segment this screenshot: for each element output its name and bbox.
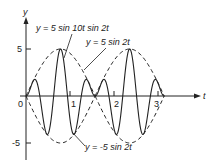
t-axis-label: t [203, 91, 206, 101]
modulated-sine-chart: y t 5 -5 0 1 2 3 y = 5 sin 10t sin 2t y … [0, 0, 207, 164]
y-tick-label-neg5: -5 [12, 138, 20, 148]
t-tick-label-2: 2 [114, 99, 119, 109]
annotation-upper-leader [84, 48, 106, 70]
annotation-upper-envelope: y = 5 sin 2t [85, 37, 130, 47]
lower-envelope-curve [26, 96, 95, 143]
t-tick-label-1: 1 [71, 99, 76, 109]
t-axis-arrow-icon [194, 94, 201, 99]
y-axis-label: y [22, 7, 28, 17]
upper-envelope-curve [26, 49, 95, 96]
modulated-sine-curve [26, 49, 164, 134]
annotation-lower-leader [72, 132, 85, 146]
annotation-modulated: y = 5 sin 10t sin 2t [35, 23, 109, 33]
t-tick-label-0: 0 [18, 99, 23, 109]
annotation-lower-envelope: y = -5 sin 2t [84, 142, 132, 152]
lower-envelope-curve-2 [95, 49, 164, 96]
y-tick-label-5: 5 [17, 44, 22, 54]
y-axis-arrow-icon [24, 17, 29, 24]
t-tick-label-3: 3 [154, 99, 159, 109]
